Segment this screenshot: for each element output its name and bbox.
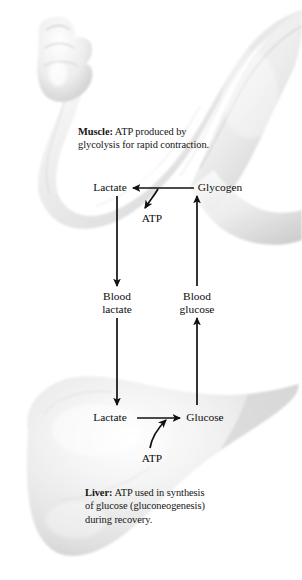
node-liver-lactate: Lactate	[93, 411, 127, 424]
arrow-branch-to-atp-muscle	[145, 189, 158, 208]
cori-cycle-figure: Muscle: ATP produced by glycolysis for r…	[0, 0, 302, 580]
arrow-atp-to-gluconeogenesis	[150, 420, 166, 448]
liver-caption: Liver: ATP used in synthesis of glucose …	[85, 473, 275, 526]
node-blood-lactate: Blood lactate	[102, 290, 132, 317]
node-muscle-glycogen: Glycogen	[198, 181, 242, 194]
node-muscle-atp: ATP	[142, 212, 162, 225]
liver-caption-lead: Liver:	[85, 487, 112, 498]
node-liver-glucose: Glucose	[186, 411, 223, 424]
muscle-caption: Muscle: ATP produced by glycolysis for r…	[78, 112, 258, 152]
node-blood-glucose: Blood glucose	[180, 290, 215, 317]
muscle-caption-lead: Muscle:	[78, 126, 113, 137]
node-muscle-lactate: Lactate	[93, 181, 127, 194]
node-liver-atp: ATP	[142, 452, 162, 465]
